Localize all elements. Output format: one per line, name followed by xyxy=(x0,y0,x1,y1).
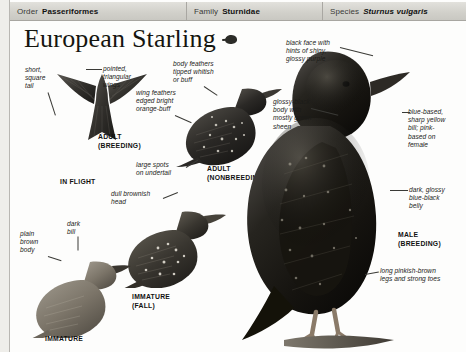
label-adult-breeding: ADULT (BREEDING) xyxy=(98,132,141,150)
label-immature-fall: IMMATURE (FALL) xyxy=(132,292,170,310)
annotation-dark-bill: dark bill xyxy=(67,220,80,236)
annotation-dull-head: dull brownish head xyxy=(111,190,150,206)
label-immature: IMMATURE xyxy=(45,334,83,343)
taxonomy-order-value: Passeriformes xyxy=(42,7,98,16)
bird-immature xyxy=(28,250,132,338)
leader-dull-head xyxy=(163,192,178,199)
annotation-wing-feathers: wing feathers edged bright orange-buff xyxy=(136,89,176,114)
taxonomy-species-value: Sturnus vulgaris xyxy=(363,7,428,16)
taxonomy-order: Order Passeriformes xyxy=(10,2,187,20)
annotation-black-face: black face with hints of shiny, glossy p… xyxy=(286,39,330,64)
annotation-glossy-body: glossy-black body with mostly green shee… xyxy=(273,98,311,131)
taxonomy-family: Family Sturnidae xyxy=(187,2,323,20)
page-gutter xyxy=(0,0,9,352)
leader-dark-bill xyxy=(78,237,79,251)
taxonomy-family-value: Sturnidae xyxy=(222,7,260,16)
leader-pointed-wings xyxy=(86,69,102,70)
annotation-belly: dark, glossy blue-black belly xyxy=(409,186,445,211)
taxonomy-order-label: Order xyxy=(17,7,38,16)
bird-male-breeding xyxy=(224,34,414,352)
annotation-short-square-tail: short, square tail xyxy=(25,66,45,91)
leader-belly xyxy=(390,190,408,191)
annotation-pointed-wings: pointed, triangular wings xyxy=(103,65,131,90)
bird-immature-fall xyxy=(120,202,228,288)
label-male-breeding: MALE (BREEDING) xyxy=(398,230,441,248)
taxonomy-header: Order Passeriformes Family Sturnidae Spe… xyxy=(10,2,466,21)
annotation-bill-detail: blue-based, sharp yellow bill; pink- bas… xyxy=(408,108,445,149)
label-in-flight: IN FLIGHT xyxy=(60,177,95,186)
annotation-plain-brown-body: plain brown body xyxy=(20,230,38,255)
taxonomy-species: Species Sturnus vulgaris xyxy=(323,2,466,20)
taxonomy-species-label: Species xyxy=(330,7,359,16)
field-guide-page: Order Passeriformes Family Sturnidae Spe… xyxy=(0,0,466,352)
illustration-plate: short, square tail pointed, triangular w… xyxy=(10,22,466,352)
annotation-body-feathers: body feathers tipped whitish or buff xyxy=(173,60,214,85)
leader-bill-detail xyxy=(402,112,410,113)
annotation-legs: long pinkish-brown legs and strong toes xyxy=(380,267,440,283)
taxonomy-family-label: Family xyxy=(194,7,218,16)
annotation-large-spots: large spots on undertail xyxy=(136,161,171,177)
